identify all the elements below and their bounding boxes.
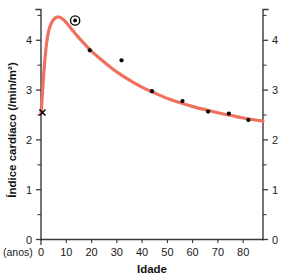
highlighted-point-marker <box>71 16 80 25</box>
data-point-dot <box>206 109 210 113</box>
left-tick-label-4: 4 <box>26 34 32 46</box>
y-axis-title: Índice cardíaco (/min/m²) <box>6 62 18 198</box>
x-tick-label-30: 30 <box>111 246 123 258</box>
right-axis-major-ticks <box>263 40 268 239</box>
x-tick-label-50: 50 <box>161 246 173 258</box>
right-tick-label-3: 3 <box>272 84 278 96</box>
left-tick-label-1: 1 <box>26 184 32 196</box>
data-point-dot <box>246 118 250 122</box>
left-tick-label-0: 0 <box>26 234 32 246</box>
x-tick-label-20: 20 <box>85 246 97 258</box>
left-axis-tick-labels: 0 1 2 3 4 <box>26 34 32 245</box>
right-axis <box>263 10 268 240</box>
x-tick-label-40: 40 <box>136 246 148 258</box>
data-point-dot <box>150 89 154 93</box>
left-axis <box>36 10 41 240</box>
cardiac-index-curve <box>41 17 263 121</box>
right-axis-tick-labels: 0 1 2 3 4 <box>272 34 278 245</box>
right-tick-label-4: 4 <box>272 34 278 46</box>
right-tick-label-2: 2 <box>272 134 278 146</box>
x-axis-title: Idade <box>137 263 167 275</box>
chart-canvas: 0 1 2 3 4 0 1 2 3 4 0 10 20 30 40 50 60 … <box>0 0 290 278</box>
cardiac-index-chart: 0 1 2 3 4 0 1 2 3 4 0 10 20 30 40 50 60 … <box>0 0 290 278</box>
data-series-curve <box>41 17 263 121</box>
data-point-dot <box>227 111 231 115</box>
right-tick-label-1: 1 <box>272 184 278 196</box>
x-tick-label-60: 60 <box>186 246 198 258</box>
x-axis-unit-note: (anos) <box>3 246 33 258</box>
data-point-dot <box>180 99 184 103</box>
data-point-dot <box>119 58 123 62</box>
x-tick-label-80: 80 <box>237 246 249 258</box>
left-axis-major-ticks <box>36 40 41 239</box>
bottom-axis-ticks <box>41 240 243 246</box>
x-tick-label-10: 10 <box>60 246 72 258</box>
left-axis-spine <box>36 10 41 240</box>
x-tick-label-0: 0 <box>38 246 44 258</box>
right-tick-label-0: 0 <box>272 234 278 246</box>
bottom-axis-tick-labels: 0 10 20 30 40 50 60 70 80 <box>38 246 249 258</box>
data-series-scatter-points <box>88 48 251 122</box>
data-point-dot <box>88 48 92 52</box>
left-tick-label-3: 3 <box>26 84 32 96</box>
left-tick-label-2: 2 <box>26 134 32 146</box>
highlighted-data-point-dot <box>73 19 77 23</box>
right-axis-spine <box>263 10 268 240</box>
x-tick-label-70: 70 <box>212 246 224 258</box>
